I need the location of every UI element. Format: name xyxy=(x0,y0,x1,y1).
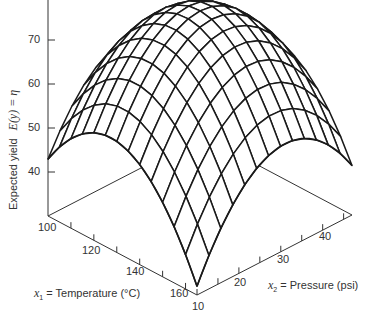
z-tick-60: 60 xyxy=(28,78,40,89)
x2-tick-30: 30 xyxy=(277,254,289,265)
x1-tick-140: 140 xyxy=(126,266,144,277)
x2-tick-10: 10 xyxy=(192,301,204,312)
z-tick-70: 70 xyxy=(28,34,40,45)
x1-tick-100: 100 xyxy=(38,222,56,233)
x2-axis-title: x2 = Pressure (psi) xyxy=(268,279,358,293)
x1-axis-title: x1 = Temperature (°C) xyxy=(34,287,140,301)
x1-tick-120: 120 xyxy=(82,245,100,256)
z-tick-50: 50 xyxy=(28,122,40,133)
z-tick-40: 40 xyxy=(28,166,40,177)
z-axis-title: Expected yieldE(y) = η xyxy=(6,90,21,210)
response-surface-plot xyxy=(0,0,367,315)
x1-tick-160: 160 xyxy=(170,288,188,299)
x2-tick-20: 20 xyxy=(234,277,246,288)
x2-tick-40: 40 xyxy=(319,231,331,242)
